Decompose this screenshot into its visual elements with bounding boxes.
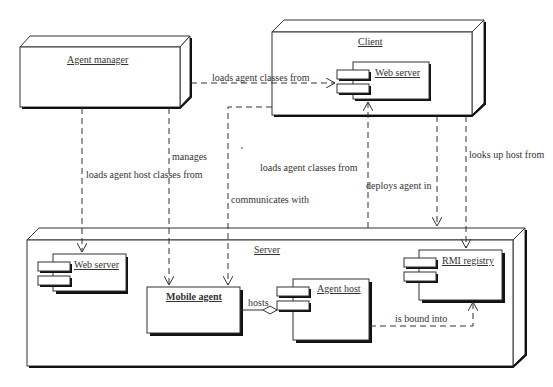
label-loads-agent-classes-from-ma: loads agent classes from <box>260 163 357 173</box>
agent-host-title: Agent host <box>317 284 361 294</box>
server-title: Server <box>254 245 280 255</box>
mobile-agent-title: Mobile agent <box>166 292 222 302</box>
server-web-server-title: Web server <box>74 260 119 270</box>
client-web-server-title: Web server <box>375 68 420 78</box>
agent-manager-node[interactable] <box>20 36 191 108</box>
label-communicates-with: communicates with <box>231 195 309 205</box>
label-hosts: hosts <box>248 298 269 308</box>
label-manages: manages <box>172 152 207 162</box>
client-title: Client <box>358 37 382 47</box>
rmi-registry-title: RMI registry <box>442 256 494 266</box>
label-loads-agent-host-classes-from: loads agent host classes from <box>86 170 203 180</box>
agent-manager-title: Agent manager <box>67 55 128 65</box>
label-looks-up-host-from: looks up host from <box>469 150 544 160</box>
label-loads-agent-classes-from-am: loads agent classes from <box>212 73 309 83</box>
label-is-bound-into: is bound into <box>395 314 447 324</box>
stray-dot <box>241 147 243 149</box>
label-deploys-agent-in: deploys agent in <box>366 181 432 191</box>
